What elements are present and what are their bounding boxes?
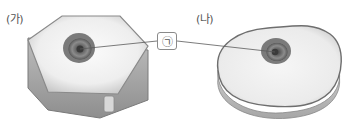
animal-cell [218, 26, 342, 119]
callout-text: ㉠ [162, 33, 173, 49]
callout-label: ㉠ [157, 32, 177, 50]
plant-cell [28, 16, 148, 118]
cell-diagram-graphic [0, 0, 350, 124]
panel-label-a: (가) [6, 10, 23, 26]
panel-label-b: (나) [196, 10, 213, 26]
diagram-stage: (가) (나) ㉠ [0, 0, 350, 124]
